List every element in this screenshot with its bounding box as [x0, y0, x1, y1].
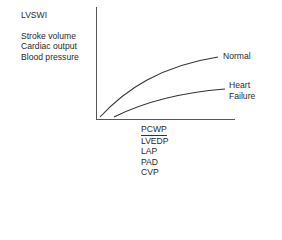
x-label-pcwp: PCWP — [141, 124, 167, 136]
x-label-lap: LAP — [141, 146, 169, 157]
x-axis-labels: PCWP LVEDP LAP PAD CVP — [141, 124, 169, 178]
label-failure: Failure — [229, 91, 255, 102]
heart-failure-curve — [114, 89, 225, 117]
x-label-pad: PAD — [141, 157, 169, 168]
label-heart-failure: Heart Failure — [229, 80, 255, 101]
label-normal: Normal — [223, 51, 251, 62]
x-label-cvp: CVP — [141, 167, 169, 178]
x-label-lvedp: LVEDP — [141, 136, 169, 147]
normal-curve — [100, 57, 218, 117]
label-heart: Heart — [229, 80, 255, 91]
